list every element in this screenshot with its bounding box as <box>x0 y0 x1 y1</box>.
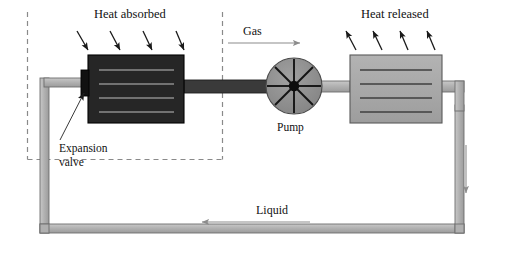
condenser <box>350 55 442 123</box>
refrigeration-cycle-diagram: Heat absorbed Heat released Gas Liquid P… <box>0 0 509 254</box>
heat-released-arrows <box>346 31 435 50</box>
heat-absorbed-label: Heat absorbed <box>94 7 166 21</box>
expansion-valve-leader <box>60 93 84 140</box>
heat-released-label: Heat released <box>361 7 429 21</box>
gas-label: Gas <box>243 25 262 38</box>
pump-hub <box>289 81 299 91</box>
evaporator <box>88 55 184 123</box>
expansion-valve-label: Expansion valve <box>59 142 108 169</box>
expansion-valve-label-line1: Expansion <box>59 142 108 156</box>
pump <box>266 58 322 114</box>
expansion-valve-label-line2: valve <box>59 156 108 170</box>
pump-label: Pump <box>277 121 304 134</box>
liquid-label: Liquid <box>256 204 288 217</box>
expansion-valve <box>81 70 89 96</box>
heat-absorbed-arrows <box>77 31 184 50</box>
